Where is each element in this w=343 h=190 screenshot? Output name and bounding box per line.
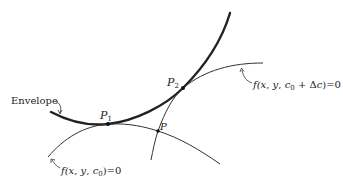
point-p2-label: P2: [166, 76, 179, 90]
envelope-label: Envelope: [11, 95, 58, 106]
envelope-curve: [51, 13, 230, 125]
point-p-label: P: [159, 121, 167, 132]
point-p1-label: P1: [99, 109, 112, 123]
curve-c0: [48, 124, 220, 164]
curve-c0-label: f(x, y, c0)=0: [60, 165, 121, 178]
curve-c0-pointer-icon: [52, 160, 60, 168]
curve-c0-dc-pointer-icon: [242, 70, 252, 83]
curve-c0-dc-label: f(x, y, c0 + Δc)=0: [252, 79, 341, 92]
envelope-diagram: Envelope P1 P2 P f(x, y, c0)=0 f(x, y, c…: [0, 0, 343, 190]
point-p2-marker: [181, 86, 185, 90]
